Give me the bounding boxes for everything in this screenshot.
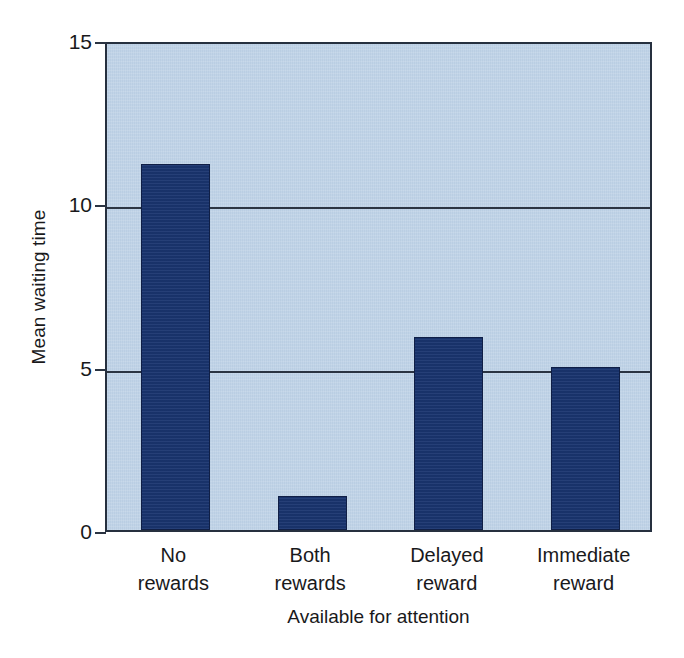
x-tick-line2: reward — [515, 569, 652, 597]
x-tick-label-delayed-reward: Delayed reward — [379, 541, 516, 603]
x-tick-line1: Immediate — [537, 544, 630, 566]
y-tick-mark-0 — [95, 532, 106, 534]
x-tick-line1: Delayed — [410, 544, 483, 566]
y-tick-label-10: 10 — [48, 193, 92, 217]
x-tick-label-no-rewards: No rewards — [105, 541, 242, 603]
bar-no-rewards — [141, 164, 210, 530]
y-tick-mark-15 — [95, 42, 106, 44]
y-tick-label-5: 5 — [48, 357, 92, 381]
bar-chart-figure: Mean waiting time 15 10 5 0 No rewards B… — [0, 0, 684, 658]
x-tick-line2: reward — [379, 569, 516, 597]
x-tick-line2: rewards — [242, 569, 379, 597]
y-axis-tick-labels: 15 10 5 0 — [40, 42, 92, 532]
x-axis-title: Available for attention — [105, 606, 652, 628]
y-tick-label-15: 15 — [48, 30, 92, 54]
x-tick-label-immediate-reward: Immediate reward — [515, 541, 652, 603]
x-axis-tick-labels: No rewards Both rewards Delayed reward I… — [105, 541, 652, 603]
y-tick-mark-10 — [95, 205, 106, 207]
bar-immediate-reward — [551, 367, 620, 530]
bar-both-rewards — [278, 496, 347, 530]
x-tick-line1: No — [161, 544, 187, 566]
x-tick-line2: rewards — [105, 569, 242, 597]
x-tick-label-both-rewards: Both rewards — [242, 541, 379, 603]
plot-area — [105, 42, 652, 532]
bar-delayed-reward — [414, 337, 483, 530]
y-tick-mark-5 — [95, 369, 106, 371]
x-tick-line1: Both — [290, 544, 331, 566]
y-tick-label-0: 0 — [48, 520, 92, 544]
